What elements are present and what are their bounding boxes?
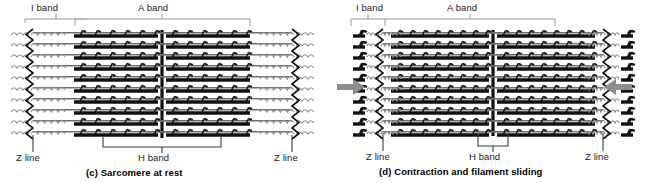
i-band-label: I band — [356, 2, 383, 13]
z-line-left-structure — [376, 29, 383, 139]
z-line-left-label: Z line — [366, 151, 390, 162]
sarcomere-body-c — [11, 29, 314, 139]
panel-contraction-filament-sliding: I band A band Z line H band Z line (d) C… — [323, 0, 646, 183]
a-band-label: A band — [447, 2, 477, 13]
panel-d-caption: (d) Contraction and filament sliding — [379, 166, 543, 177]
sarcomere-body-d — [353, 29, 635, 139]
i-band-bracket — [351, 14, 385, 26]
h-band-bracket — [103, 136, 221, 153]
panel-c-caption: (c) Sarcomere at rest — [86, 167, 183, 178]
z-line-right-label: Z line — [274, 152, 298, 163]
z-line-right-label: Z line — [585, 151, 609, 162]
z-line-left-label: Z line — [16, 152, 40, 163]
i-band-label: I band — [31, 2, 58, 13]
a-band-label: A band — [138, 2, 168, 13]
h-band-label: H band — [469, 151, 500, 162]
a-band-bracket — [385, 14, 555, 26]
panel-sarcomere-at-rest: I band A band Z line H band Z line (c) S… — [0, 0, 323, 183]
a-band-bracket — [75, 14, 250, 26]
h-band-label: H band — [138, 152, 169, 163]
